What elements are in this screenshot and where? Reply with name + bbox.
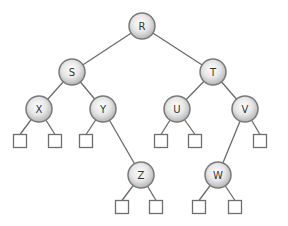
node-label: Y: [99, 104, 107, 115]
leaf-node: [193, 201, 206, 214]
tree-node-V: V: [232, 96, 258, 122]
leaf-node: [189, 135, 202, 148]
leaf-node: [116, 201, 129, 214]
node-label: X: [36, 104, 43, 115]
tree-node-Y: Y: [90, 96, 116, 122]
leaf-node: [229, 201, 242, 214]
node-label: T: [209, 67, 217, 78]
tree-node-X: X: [26, 96, 52, 122]
tree-node-W: W: [205, 162, 231, 188]
leaf-node: [80, 135, 93, 148]
node-label: S: [69, 67, 75, 78]
tree-node-R: R: [129, 13, 155, 39]
tree-node-Z: Z: [128, 162, 154, 188]
node-label: W: [213, 170, 223, 181]
leaf-node: [150, 201, 163, 214]
tree-node-T: T: [200, 59, 226, 85]
node-label: Z: [138, 170, 145, 181]
tree-node-S: S: [59, 59, 85, 85]
leaf-node: [155, 135, 168, 148]
leaf-node: [14, 135, 27, 148]
leaf-node: [49, 135, 62, 148]
binary-tree-diagram: RSTXYUVZW: [0, 0, 288, 226]
node-label: V: [242, 104, 249, 115]
node-label: R: [139, 21, 146, 32]
tree-node-U: U: [164, 96, 190, 122]
leaf-node: [254, 135, 267, 148]
node-label: U: [173, 104, 180, 115]
